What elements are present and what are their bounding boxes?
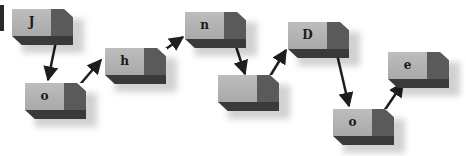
node-label: D [288, 22, 327, 49]
node-label: o [25, 83, 64, 110]
node-box: h [105, 48, 167, 84]
node-label: o [333, 109, 372, 136]
node-box: e [388, 52, 450, 88]
linked-list-diagram: J o h n D [0, 0, 466, 156]
node-box: o [333, 109, 395, 145]
node-box [218, 75, 280, 111]
node-label [218, 75, 257, 102]
node-label: n [185, 12, 224, 39]
node-box: J [12, 9, 74, 45]
node-label: h [105, 48, 144, 75]
node-label: e [388, 52, 427, 79]
node-label: J [12, 9, 51, 36]
node-box: o [25, 83, 87, 119]
node-box: D [288, 22, 350, 58]
node-box: n [185, 12, 247, 48]
